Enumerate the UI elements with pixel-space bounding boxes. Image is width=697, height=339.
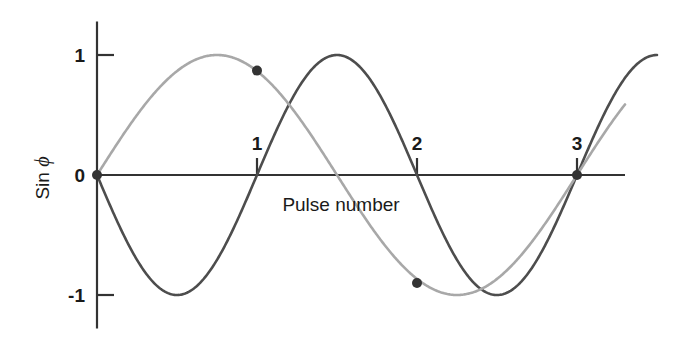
- plot-canvas: [0, 0, 697, 339]
- y-tick-label: -1: [68, 286, 85, 305]
- data-point-marker: [412, 278, 422, 288]
- chart-figure: 123 10-1 Pulse number Sin ϕ: [0, 0, 697, 339]
- y-tick-label: 0: [74, 166, 85, 185]
- x-tick-label: 3: [572, 134, 583, 153]
- data-point-marker: [252, 66, 262, 76]
- data-point-marker: [92, 170, 102, 180]
- x-axis-title: Pulse number: [282, 195, 399, 214]
- data-point-marker: [572, 170, 582, 180]
- y-tick-label: 1: [74, 46, 85, 65]
- x-tick-label: 2: [412, 134, 423, 153]
- x-tick-label: 1: [252, 134, 263, 153]
